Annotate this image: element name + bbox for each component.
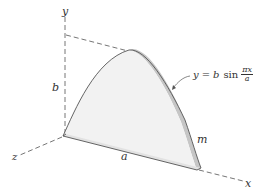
- equation-coefficient: b: [213, 70, 219, 80]
- equation-function: sin: [223, 70, 238, 80]
- x-axis: [199, 170, 243, 181]
- z-axis: [20, 137, 62, 155]
- equation-leader: [173, 76, 190, 88]
- equation-equals: =: [202, 70, 210, 80]
- equation-fraction: πx a: [241, 66, 253, 83]
- y-axis-label: y: [62, 6, 68, 17]
- plate-figure: [0, 0, 265, 194]
- height-reference-line: [66, 35, 128, 51]
- equation-lhs: y: [193, 70, 199, 80]
- fraction-denominator: a: [245, 75, 250, 83]
- curve-equation: y = b sin πx a: [193, 66, 253, 83]
- diagram-canvas: y z x b a m y = b sin πx a: [0, 0, 265, 194]
- z-axis-label: z: [12, 152, 17, 162]
- height-label: b: [52, 82, 59, 93]
- thickness-label: m: [197, 134, 207, 145]
- base-label: a: [121, 151, 128, 162]
- x-axis-label: x: [245, 178, 251, 189]
